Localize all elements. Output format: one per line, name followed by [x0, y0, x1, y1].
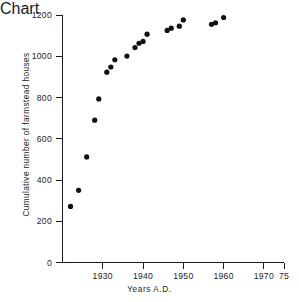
x-tick-label: 1960: [213, 271, 233, 281]
data-point: [144, 32, 149, 37]
data-point: [132, 45, 137, 50]
y-tick-label: 400: [37, 175, 52, 185]
x-axis: 1930194019501960197075: [63, 263, 290, 281]
data-point: [140, 39, 145, 44]
data-point: [169, 26, 174, 31]
y-tick-label: 800: [37, 93, 52, 103]
data-point: [76, 188, 81, 193]
x-tick-label: 1970: [254, 271, 274, 281]
y-tick-label: 1200: [32, 10, 52, 20]
data-point: [104, 70, 109, 75]
y-tick-label: 1000: [32, 51, 52, 61]
data-point: [124, 53, 129, 58]
y-tick-label: 200: [37, 216, 52, 226]
data-point: [213, 20, 218, 25]
y-tick-label: 0: [47, 258, 52, 268]
data-points: [68, 15, 226, 209]
data-point: [96, 96, 101, 101]
x-tick-label: 75: [279, 271, 289, 281]
scatter-plot: 020040060080010001200 193019401950196019…: [0, 0, 299, 302]
x-tick-label: 1940: [133, 271, 153, 281]
chart-figure: Cumulative number of farmstead houses Ye…: [0, 0, 299, 302]
data-point: [108, 64, 113, 69]
data-point: [68, 204, 73, 209]
data-point: [92, 118, 97, 123]
data-point: [177, 24, 182, 29]
y-tick-label: 600: [37, 134, 52, 144]
data-point: [84, 154, 89, 159]
x-tick-label: 1950: [173, 271, 193, 281]
data-point: [181, 17, 186, 22]
data-point: [112, 57, 117, 62]
x-tick-label: 1930: [93, 271, 113, 281]
data-point: [221, 15, 226, 20]
y-axis: 020040060080010001200: [32, 10, 63, 268]
